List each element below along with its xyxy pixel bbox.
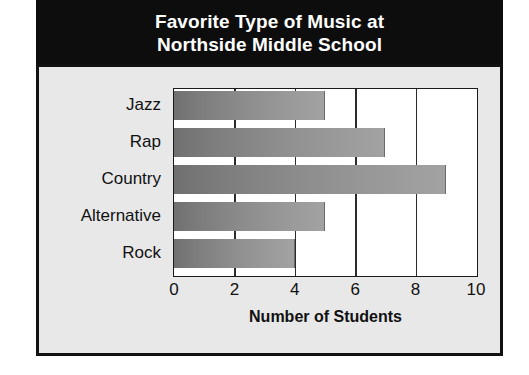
bar-row [174, 202, 325, 231]
x-tick-label-10: 10 [467, 280, 486, 300]
x-tick-label-4: 4 [290, 280, 299, 300]
bar-alternative [174, 202, 325, 231]
plot-area [173, 88, 478, 277]
chart-title-line-1: Favorite Type of Music at [155, 10, 384, 33]
bar-row [174, 239, 295, 268]
bar-jazz [174, 91, 325, 120]
x-tick-label-6: 6 [350, 280, 359, 300]
chart-title-line-2: Northside Middle School [157, 33, 382, 56]
bar-row [174, 128, 385, 157]
x-axis-label: Number of Students [173, 308, 478, 326]
category-label-rock: Rock [122, 238, 161, 267]
bar-rap [174, 128, 385, 157]
chart-title-banner: Favorite Type of Music at Northside Midd… [36, 0, 503, 64]
x-axis-ticks: 0246810 [173, 280, 478, 306]
category-axis-labels: JazzRapCountryAlternativeRock [39, 88, 167, 277]
x-tick-label-0: 0 [169, 280, 178, 300]
bar-country [174, 165, 446, 194]
x-tick-label-2: 2 [230, 280, 239, 300]
bar-series [174, 89, 477, 276]
category-label-rap: Rap [130, 127, 161, 156]
bar-row [174, 165, 446, 194]
bar-rock [174, 239, 295, 268]
bar-row [174, 91, 325, 120]
chart-figure: Favorite Type of Music at Northside Midd… [36, 0, 503, 356]
x-tick-label-8: 8 [411, 280, 420, 300]
category-label-jazz: Jazz [126, 90, 161, 119]
category-label-country: Country [101, 164, 161, 193]
chart-panel: JazzRapCountryAlternativeRock 0246810 Nu… [36, 64, 503, 356]
category-label-alternative: Alternative [81, 201, 161, 230]
